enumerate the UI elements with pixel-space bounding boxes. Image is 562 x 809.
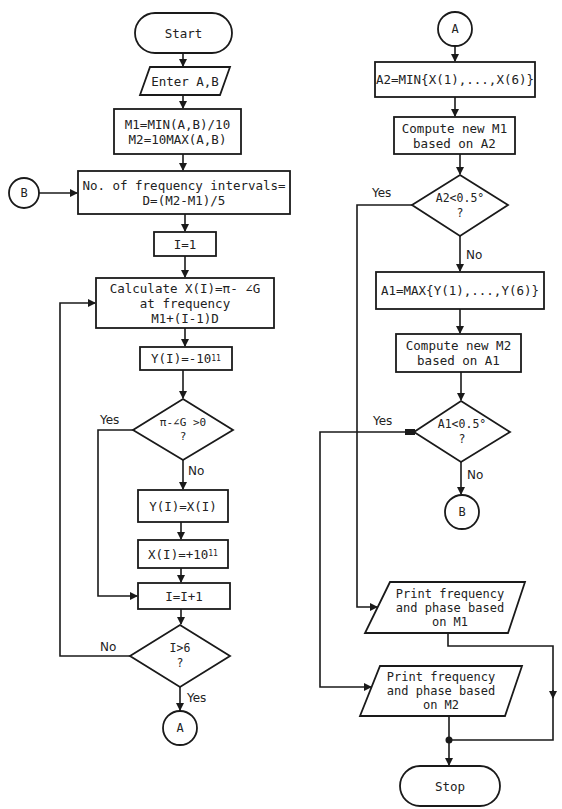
print-m1-line2: and phase based (396, 601, 504, 615)
print-m1-output: Print frequency and phase based on M1 (380, 582, 520, 633)
decision-loop: I>6 ? (130, 625, 230, 687)
init-m-box: M1=MIN(A,B)/10 M2=10MAX(A,B) (114, 109, 241, 154)
decision-a2: A2<0.5° ? (412, 175, 508, 236)
compute-m2-box: Compute new M2 based on A1 (396, 334, 521, 372)
print-m2-line1: Print frequency (387, 670, 495, 684)
decision-loop-line2: ? (177, 656, 184, 671)
intervals-box: No. of frequency intervals= D=(M2-M1)/5 (78, 171, 290, 214)
calculate-line1: Calculate X(I)=π- ∠G (110, 281, 261, 296)
print-m1-line3: on M1 (432, 615, 468, 629)
a2-min-label: A2=MIN{X(1),...,X(6)} (376, 72, 534, 87)
connector-b-out: B (445, 495, 479, 529)
print-m1-line1: Print frequency (396, 587, 504, 601)
decision-a1: A1<0.5° ? (414, 401, 510, 462)
init-m1-label: M1=MIN(A,B)/10 (125, 117, 230, 132)
decision-phase-line1: π-∠G >0 (160, 416, 206, 430)
decision-a2-line1: A2<0.5° (436, 191, 484, 206)
a1-max-box: A1=MAX{Y(1),...,Y(6)} (376, 272, 544, 309)
decision-a1-line2: ? (459, 432, 466, 447)
set-y-negative-base: Y(I)=-10 (151, 351, 211, 366)
decision-phase-line2: ? (180, 430, 187, 444)
decision-loop-line1: I>6 (170, 641, 191, 656)
decision-loop-yes-label: Yes (187, 691, 206, 705)
increment-box: I=I+1 (138, 583, 230, 609)
decision-phase: π-∠G >0 ? (133, 399, 233, 460)
init-i-box: I=1 (154, 232, 216, 256)
a1-max-label: A1=MAX{Y(1),...,Y(6)} (381, 283, 539, 298)
connector-b-out-label: B (458, 505, 465, 520)
calculate-line2: at frequency (140, 296, 230, 311)
print-m2-output: Print frequency and phase based on M2 (366, 666, 516, 716)
init-i-label: I=1 (174, 237, 197, 252)
a2-min-box: A2=MIN{X(1),...,X(6)} (375, 62, 535, 97)
start-terminator: Start (135, 13, 232, 53)
input-enter-a-b: Enter A,B (140, 67, 230, 95)
stop-terminator: Stop (400, 766, 500, 806)
intervals-line2: D=(M2-M1)/5 (143, 193, 226, 208)
set-y-x-label: Y(I)=X(I) (149, 499, 217, 514)
compute-m1-box: Compute new M1 based on A2 (394, 117, 515, 154)
set-x-positive-box: X(I)=+1011 (138, 540, 228, 568)
connector-a-in: A (438, 12, 472, 46)
connector-a-out: A (163, 711, 197, 745)
stop-label: Stop (435, 779, 465, 794)
connector-a-out-label: A (176, 721, 183, 736)
set-y-negative-box: Y(I)=-1011 (140, 347, 232, 370)
decision-a1-line1: A1<0.5° (438, 417, 486, 432)
print-m2-line2: and phase based (387, 684, 495, 698)
compute-m2-line2: based on A1 (417, 353, 500, 368)
decision-phase-no-label: No (188, 464, 204, 478)
calculate-box: Calculate X(I)=π- ∠G at frequency M1+(I-… (96, 278, 274, 328)
decision-a2-line2: ? (457, 206, 464, 221)
input-label: Enter A,B (151, 74, 219, 89)
decision-a1-no-label: No (467, 468, 483, 482)
intervals-line1: No. of frequency intervals= (82, 178, 285, 193)
compute-m1-line1: Compute new M1 (402, 121, 507, 136)
init-m2-label: M2=10MAX(A,B) (129, 132, 227, 147)
decision-a1-yes-label: Yes (373, 414, 392, 428)
decision-a2-no-label: No (466, 248, 482, 262)
decision-phase-yes-label: Yes (100, 413, 119, 427)
calculate-line3: M1+(I-1)D (151, 311, 219, 326)
decision-a2-yes-label: Yes (372, 186, 391, 200)
print-m2-line3: on M2 (423, 698, 459, 712)
connector-b-in: B (9, 178, 39, 208)
connector-a-in-label: A (451, 22, 458, 37)
start-label: Start (165, 26, 203, 41)
compute-m1-line2: based on A2 (413, 136, 496, 151)
compute-m2-line1: Compute new M2 (406, 338, 511, 353)
set-y-x-box: Y(I)=X(I) (138, 490, 228, 522)
set-x-positive-base: X(I)=+10 (148, 547, 208, 562)
increment-label: I=I+1 (165, 589, 203, 604)
decision-loop-no-label: No (100, 640, 116, 654)
connector-b-in-label: B (20, 186, 27, 201)
